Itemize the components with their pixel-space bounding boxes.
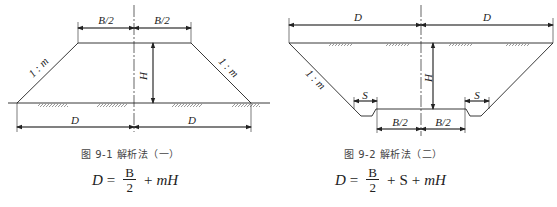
figure2-formula: D = B 2 + S + mH	[335, 166, 446, 194]
formula-fraction: B 2	[366, 166, 379, 194]
ditch-left-label: S	[362, 89, 368, 101]
formula-lhs: D	[92, 172, 103, 189]
figure2-cutting	[289, 5, 553, 136]
ground-hatch	[448, 44, 472, 46]
fraction-numerator: B	[123, 166, 136, 180]
slope-label-right: 1 : m	[217, 55, 242, 80]
ground-hatch	[232, 104, 260, 107]
figure2-caption: 图 9-2 解析法（二）	[344, 146, 443, 161]
slope-label-left: 1 : m	[26, 55, 51, 80]
formula-equals: =	[350, 172, 358, 189]
half-width-right-label: B/2	[435, 116, 451, 128]
ground-hatch	[328, 44, 352, 46]
ground-hatch	[38, 104, 68, 107]
formula-term: mH	[424, 172, 446, 189]
fraction-numerator: B	[366, 166, 379, 180]
figure1-labels: B/2 B/2 H 1 : m 1 : m D D	[26, 14, 241, 126]
figure1-caption: 图 9-1 解析法（一）	[81, 146, 180, 161]
ground-hatch	[505, 44, 529, 46]
formula-lhs: D	[335, 172, 346, 189]
formula-plus: +	[144, 172, 152, 189]
ground-hatch	[97, 104, 127, 107]
distance-right-label: D	[187, 114, 196, 126]
fraction-denominator: 2	[126, 180, 133, 194]
half-width-right-label: B/2	[154, 14, 170, 26]
fraction-denominator: 2	[369, 180, 376, 194]
formula-fraction: B 2	[123, 166, 136, 194]
height-label: H	[137, 71, 149, 81]
formula-plus: +	[412, 172, 420, 189]
slope-label: 1 : m	[304, 67, 329, 92]
formula-equals: =	[107, 172, 115, 189]
diagrams-canvas: B/2 B/2 H 1 : m 1 : m D D	[0, 0, 557, 140]
ground-hatch	[385, 44, 409, 46]
figure1-formula: D = B 2 + mH	[92, 166, 178, 194]
ground-hatch	[172, 104, 202, 107]
formula-term: S	[399, 172, 407, 189]
height-label: H	[422, 73, 434, 83]
ditch-right-label: S	[474, 89, 480, 101]
formula-plus: +	[387, 172, 395, 189]
distance-left-label: D	[353, 11, 362, 23]
distance-right-label: D	[482, 11, 491, 23]
distance-left-label: D	[70, 114, 79, 126]
formula-term: mH	[156, 172, 178, 189]
half-width-left-label: B/2	[98, 14, 114, 26]
half-width-left-label: B/2	[392, 116, 408, 128]
figure2-labels: D D H 1 : m S S B/2 B/2	[304, 11, 491, 128]
